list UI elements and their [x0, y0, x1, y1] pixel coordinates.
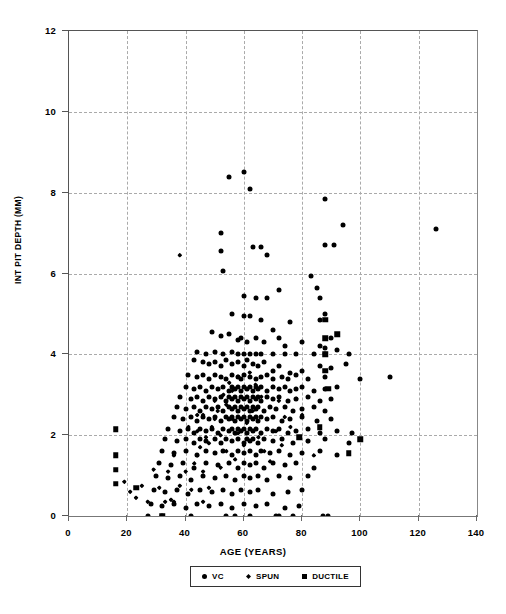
data-point-vc [247, 514, 252, 517]
data-point-vc [192, 441, 197, 446]
data-point-vc [230, 311, 235, 316]
data-point-vc [265, 394, 270, 399]
data-point-vc [224, 358, 229, 363]
data-point-vc [218, 364, 223, 369]
data-point-vc [186, 491, 191, 496]
data-point-vc [230, 350, 235, 355]
data-point-vc [247, 475, 252, 480]
x-tick [243, 515, 244, 521]
y-tick-label: 2 [16, 429, 56, 440]
data-point-vc [221, 487, 226, 492]
y-tick [62, 192, 68, 193]
data-point-vc [206, 417, 211, 422]
data-point-vc [271, 376, 276, 381]
data-point-vc [227, 332, 232, 337]
data-point-vc [238, 336, 243, 341]
x-tick [68, 515, 69, 521]
data-point-vc [265, 388, 270, 393]
data-point-vc [256, 473, 261, 478]
data-point-spun [311, 453, 316, 458]
data-point-vc [247, 463, 252, 468]
data-point-spun [157, 485, 162, 490]
data-point-ductile [358, 436, 364, 442]
data-point-vc [256, 404, 261, 409]
data-point-vc [268, 404, 273, 409]
data-point-vc [166, 475, 171, 480]
x-tick-label: 140 [456, 527, 496, 538]
data-point-vc [305, 394, 310, 399]
data-point-vc [241, 451, 246, 456]
data-point-vc [244, 340, 249, 345]
legend-label-vc: VC [212, 572, 224, 581]
data-point-vc [276, 336, 281, 341]
data-point-vc [294, 352, 299, 357]
data-point-vc [285, 376, 290, 381]
data-point-vc [221, 269, 226, 274]
data-point-vc [387, 374, 392, 379]
data-point-vc [218, 334, 223, 339]
data-point-vc [206, 376, 211, 381]
data-point-vc [271, 439, 276, 444]
data-point-vc [300, 368, 305, 373]
data-point-vc [329, 396, 334, 401]
data-point-vc [203, 461, 208, 466]
data-point-vc [189, 477, 194, 482]
data-point-vc [323, 243, 328, 248]
data-point-spun [151, 467, 156, 472]
data-point-vc [212, 475, 217, 480]
data-point-vc [265, 427, 270, 432]
data-point-vc [262, 437, 267, 442]
data-point-vc [294, 372, 299, 377]
data-point-vc [209, 330, 214, 335]
data-point-vc [262, 465, 267, 470]
data-point-vc [212, 350, 217, 355]
x-tick-label: 120 [398, 527, 438, 538]
data-point-vc [233, 477, 238, 482]
data-point-vc [291, 514, 296, 517]
data-point-vc [271, 328, 276, 333]
x-tick [185, 515, 186, 521]
data-point-vc [186, 372, 191, 377]
x-tick-label: 80 [281, 527, 321, 538]
data-point-vc [311, 352, 316, 357]
y-tick-label: 0 [16, 510, 56, 521]
data-point-spun [201, 499, 206, 504]
data-point-vc [247, 489, 252, 494]
data-point-vc [262, 340, 267, 345]
data-point-vc [224, 437, 229, 442]
x-tick-label: 60 [223, 527, 263, 538]
data-point-vc [145, 514, 150, 517]
x-tick-label: 0 [48, 527, 88, 538]
data-point-vc [335, 384, 340, 389]
legend-item-spun: SPUN [246, 572, 279, 581]
data-point-vc [230, 505, 235, 510]
data-point-vc [285, 489, 290, 494]
data-point-spun [134, 495, 139, 500]
data-point-vc [154, 473, 159, 478]
data-point-vc [212, 372, 217, 377]
data-point-vc [305, 427, 310, 432]
data-point-ductile [296, 434, 302, 440]
data-point-vc [247, 352, 252, 357]
data-point-vc [201, 372, 206, 377]
data-point-vc [203, 352, 208, 357]
data-point-vc [323, 408, 328, 413]
data-point-vc [224, 473, 229, 478]
data-point-vc [236, 437, 241, 442]
data-point-vc [282, 404, 287, 409]
y-tick-label: 12 [16, 25, 56, 36]
y-tick [62, 353, 68, 354]
data-point-vc [218, 374, 223, 379]
data-point-vc [317, 295, 322, 300]
data-point-vc [180, 461, 185, 466]
data-point-vc [265, 477, 270, 482]
data-point-vc [192, 386, 197, 391]
data-point-vc [201, 398, 206, 403]
data-point-spun [177, 253, 182, 258]
data-point-vc [323, 311, 328, 316]
data-point-vc [276, 473, 281, 478]
data-point-vc [256, 364, 261, 369]
data-point-vc [209, 384, 214, 389]
data-point-vc [253, 295, 258, 300]
diamond-marker-icon [246, 574, 251, 579]
